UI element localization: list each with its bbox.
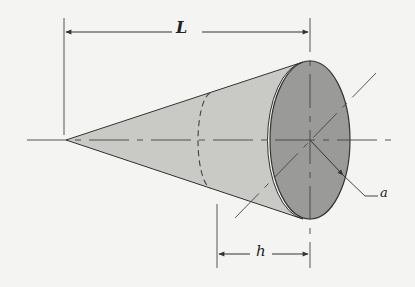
cone-diagram: L h a [0, 0, 415, 287]
radius-label: a [380, 186, 388, 199]
length-label: L [176, 20, 187, 36]
diagram-graphics [0, 0, 415, 287]
section-distance-label: h [256, 244, 266, 259]
cone-surface [66, 62, 303, 219]
radius-leader [343, 175, 378, 196]
